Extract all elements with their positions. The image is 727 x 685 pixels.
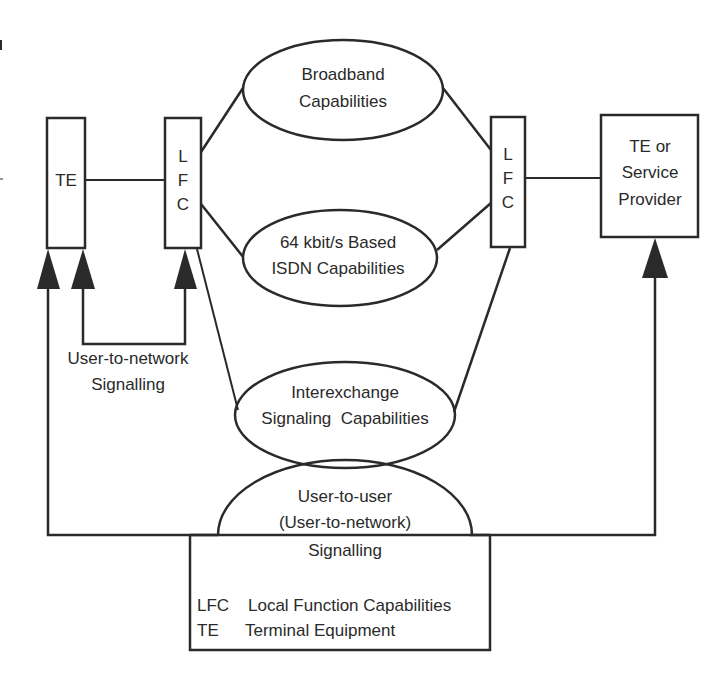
interexchange-label-line2: Signaling Capabilities <box>261 409 428 428</box>
user-to-network-loop <box>83 289 185 344</box>
isdn-architecture-diagram: TE L F C Broadband Capabilities 64 kbit/… <box>0 0 727 685</box>
node-te-left: TE <box>47 118 85 248</box>
user-to-user-loop-left <box>48 289 218 535</box>
arrow-up-icon <box>71 249 95 289</box>
node-interexchange-signaling: Interexchange Signaling Capabilities <box>235 362 455 468</box>
provider-label-line1: TE or <box>629 137 671 156</box>
interexchange-label-line1: Interexchange <box>291 383 399 402</box>
user-to-network-label-line1: User-to-network <box>68 349 189 368</box>
connector-broadband-lfc-right <box>443 88 491 150</box>
isdn64-label-line2: ISDN Capabilities <box>271 259 404 278</box>
isdn64-ellipse <box>243 210 437 306</box>
connector-lfc-left-broadband <box>201 88 243 152</box>
provider-label-line3: Provider <box>618 190 682 209</box>
user-to-network-label: User-to-network Signalling <box>68 349 189 394</box>
connector-lfc-left-interexchange <box>197 249 238 410</box>
node-lfc-left: L F C <box>165 118 201 248</box>
connector-lfc-left-isdn64 <box>201 204 244 258</box>
node-isdn64-capabilities: 64 kbit/s Based ISDN Capabilities <box>243 210 437 306</box>
connector-isdn64-lfc-right <box>437 203 491 250</box>
node-lfc-right: L F C <box>491 117 525 247</box>
legend-abbr-te: TE <box>197 621 219 640</box>
lfc-right-label-l: L <box>503 145 512 164</box>
user-to-user-label-line1: User-to-user <box>298 487 393 506</box>
provider-label-line2: Service <box>622 163 679 182</box>
legend-abbr-lfc: LFC <box>197 596 229 615</box>
lfc-left-label-l: L <box>178 147 187 166</box>
legend-meaning-te: Terminal Equipment <box>245 621 396 640</box>
user-to-user-label-line3: Signalling <box>308 541 382 560</box>
arrow-up-icon <box>37 249 60 289</box>
lfc-left-label-c: C <box>177 195 189 214</box>
broadband-ellipse <box>243 40 443 140</box>
arrow-up-icon <box>174 249 197 289</box>
user-to-user-label-line2: (User-to-network) <box>279 513 411 532</box>
broadband-label-line2: Capabilities <box>299 92 387 111</box>
legend-meaning-lfc: Local Function Capabilities <box>248 596 451 615</box>
te-left-label: TE <box>55 171 77 190</box>
isdn64-label-line1: 64 kbit/s Based <box>280 233 396 252</box>
user-to-user-loop-right <box>470 278 655 535</box>
lfc-right-label-c: C <box>502 193 514 212</box>
node-broadband-capabilities: Broadband Capabilities <box>243 40 443 140</box>
lfc-right-label-f: F <box>503 169 513 188</box>
arrow-up-icon <box>642 238 668 278</box>
lfc-left-label-f: F <box>178 171 188 190</box>
node-te-service-provider: TE or Service Provider <box>601 115 698 237</box>
broadband-label-line1: Broadband <box>301 65 384 84</box>
user-to-network-label-line2: Signalling <box>91 375 165 394</box>
connector-lfc-right-interexchange <box>454 248 510 412</box>
legend: LFC Local Function Capabilities TE Termi… <box>197 596 451 640</box>
